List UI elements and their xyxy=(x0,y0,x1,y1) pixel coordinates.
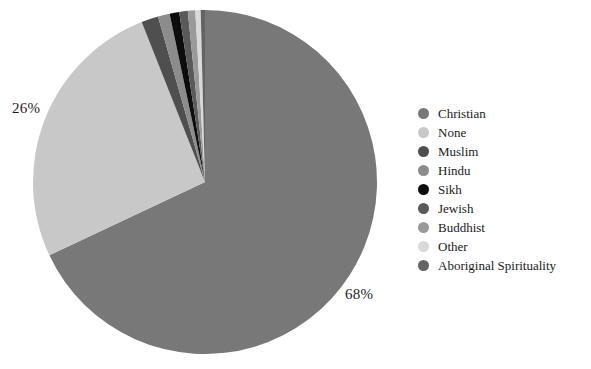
legend-swatch-icon xyxy=(418,260,429,271)
pie-plot-area xyxy=(0,0,400,369)
legend-swatch-icon xyxy=(418,203,429,214)
legend-item-aboriginal-spirituality[interactable]: Aboriginal Spirituality xyxy=(418,256,588,275)
pie-label-christian: 68% xyxy=(345,286,373,303)
legend-item-label: Hindu xyxy=(438,161,471,180)
legend: ChristianNoneMuslimHinduSikhJewishBuddhi… xyxy=(418,104,588,275)
pie-slice-group xyxy=(33,10,377,354)
legend-item-hindu[interactable]: Hindu xyxy=(418,161,588,180)
legend-swatch-icon xyxy=(418,146,429,157)
legend-item-label: Jewish xyxy=(438,199,473,218)
legend-item-none[interactable]: None xyxy=(418,123,588,142)
pie-label-none: 26% xyxy=(12,100,40,117)
legend-item-buddhist[interactable]: Buddhist xyxy=(418,218,588,237)
legend-item-label: Muslim xyxy=(438,142,478,161)
legend-swatch-icon xyxy=(418,184,429,195)
legend-item-label: None xyxy=(438,123,466,142)
legend-swatch-icon xyxy=(418,241,429,252)
legend-item-label: Buddhist xyxy=(438,218,485,237)
legend-item-muslim[interactable]: Muslim xyxy=(418,142,588,161)
legend-item-sikh[interactable]: Sikh xyxy=(418,180,588,199)
legend-item-label: Sikh xyxy=(438,180,462,199)
legend-item-jewish[interactable]: Jewish xyxy=(418,199,588,218)
legend-swatch-icon xyxy=(418,165,429,176)
legend-item-label: Other xyxy=(438,237,468,256)
legend-swatch-icon xyxy=(418,222,429,233)
pie-svg xyxy=(0,0,400,369)
pie-chart-figure: 26% 68% ChristianNoneMuslimHinduSikhJewi… xyxy=(0,0,591,369)
legend-swatch-icon xyxy=(418,127,429,138)
legend-swatch-icon xyxy=(418,108,429,119)
legend-item-label: Christian xyxy=(438,104,486,123)
legend-item-other[interactable]: Other xyxy=(418,237,588,256)
legend-item-christian[interactable]: Christian xyxy=(418,104,588,123)
legend-item-label: Aboriginal Spirituality xyxy=(438,256,556,275)
